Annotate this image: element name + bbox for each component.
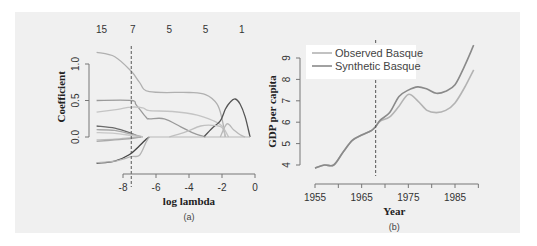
panel-b-synthetic-control: 456789GDP per capita1955196519751985Year…: [262, 12, 520, 233]
y-tick-label: 9: [281, 55, 292, 61]
legend-label: Synthetic Basque: [335, 60, 421, 72]
panel-caption: (b): [389, 222, 400, 232]
top-axis-df-label: 15: [96, 24, 108, 35]
y-axis-title: Coefficient: [55, 71, 67, 123]
legend-label: Observed Basque: [335, 47, 423, 59]
y-axis-title: GDP per capita: [266, 75, 278, 148]
x-tick-label: 1965: [351, 192, 374, 203]
top-axis-df-label: 5: [166, 24, 172, 35]
x-tick-label: 1985: [444, 192, 467, 203]
y-tick-label: 6: [281, 119, 292, 125]
top-axis-df-label: 7: [130, 24, 136, 35]
legend: Observed BasqueSynthetic Basque: [306, 45, 423, 79]
y-tick-label: 0.5: [70, 93, 81, 107]
coefficient-path-line: [97, 52, 226, 137]
coefficient-path-line: [169, 125, 225, 137]
panel-a-lasso-path: 0.00.51.0Coefficient-8-6-4-20log lambda(…: [15, 12, 262, 233]
x-tick-label: -6: [152, 182, 161, 193]
lasso-coefficient-chart: 0.00.51.0Coefficient-8-6-4-20log lambda(…: [15, 12, 262, 233]
coefficient-path-line: [97, 100, 206, 137]
top-axis-df-label: 5: [203, 24, 209, 35]
y-tick-label: 4: [281, 162, 292, 168]
x-tick-label: -2: [218, 182, 227, 193]
x-tick-label: -4: [185, 182, 194, 193]
y-tick-label: 1.0: [70, 57, 81, 71]
panel-caption: (a): [184, 212, 195, 222]
y-tick-label: 7: [281, 98, 292, 104]
x-tick-label: -8: [119, 182, 128, 193]
x-tick-label: 1955: [304, 192, 327, 203]
gdp-per-capita-chart: 456789GDP per capita1955196519751985Year…: [262, 12, 520, 233]
coefficient-path-line: [204, 99, 250, 137]
y-tick-label: 8: [281, 76, 292, 82]
x-tick-label: 1975: [397, 192, 420, 203]
y-tick-label: 0.0: [70, 130, 81, 144]
x-axis-title: log lambda: [163, 195, 216, 207]
x-axis-title: Year: [383, 205, 405, 217]
x-tick-label: 0: [252, 182, 258, 193]
gdp-series-line: [315, 70, 474, 168]
y-tick-label: 5: [281, 140, 292, 146]
top-axis-df-label: 1: [239, 24, 245, 35]
